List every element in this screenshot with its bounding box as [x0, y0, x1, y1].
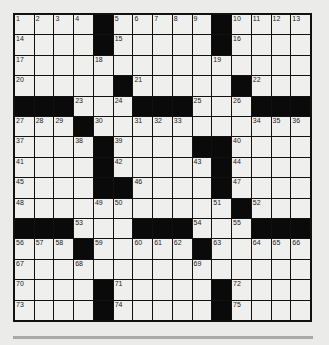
grid-cell[interactable]: 61 [153, 239, 172, 258]
grid-cell[interactable]: 46 [133, 178, 152, 197]
grid-cell[interactable] [232, 117, 251, 136]
grid-cell[interactable] [153, 280, 172, 299]
grid-cell[interactable] [74, 301, 93, 320]
grid-cell[interactable]: 14 [15, 35, 34, 54]
grid-cell[interactable] [173, 158, 192, 177]
grid-cell[interactable] [232, 239, 251, 258]
grid-cell[interactable] [35, 178, 54, 197]
grid-cell[interactable]: 32 [153, 117, 172, 136]
grid-cell[interactable] [133, 137, 152, 156]
grid-cell[interactable] [35, 56, 54, 75]
grid-cell[interactable] [252, 158, 271, 177]
grid-cell[interactable] [272, 301, 291, 320]
grid-cell[interactable] [153, 301, 172, 320]
grid-cell[interactable]: 52 [252, 199, 271, 218]
grid-cell[interactable]: 69 [193, 260, 212, 279]
grid-cell[interactable]: 20 [15, 76, 34, 95]
grid-cell[interactable] [272, 76, 291, 95]
grid-cell[interactable] [94, 76, 113, 95]
grid-cell[interactable] [272, 56, 291, 75]
grid-cell[interactable] [252, 56, 271, 75]
grid-cell[interactable] [74, 199, 93, 218]
grid-cell[interactable]: 8 [173, 15, 192, 34]
grid-cell[interactable]: 65 [272, 239, 291, 258]
grid-cell[interactable]: 67 [15, 260, 34, 279]
grid-cell[interactable]: 75 [232, 301, 251, 320]
grid-cell[interactable] [133, 199, 152, 218]
grid-cell[interactable] [54, 301, 73, 320]
grid-cell[interactable] [193, 56, 212, 75]
grid-cell[interactable] [153, 76, 172, 95]
grid-cell[interactable] [153, 199, 172, 218]
grid-cell[interactable] [133, 35, 152, 54]
grid-cell[interactable] [35, 199, 54, 218]
grid-cell[interactable] [291, 199, 310, 218]
grid-cell[interactable]: 27 [15, 117, 34, 136]
grid-cell[interactable] [35, 158, 54, 177]
grid-cell[interactable]: 66 [291, 239, 310, 258]
grid-cell[interactable] [35, 260, 54, 279]
grid-cell[interactable] [94, 260, 113, 279]
grid-cell[interactable] [173, 56, 192, 75]
grid-cell[interactable]: 49 [94, 199, 113, 218]
grid-cell[interactable] [291, 301, 310, 320]
grid-cell[interactable]: 43 [193, 158, 212, 177]
grid-cell[interactable] [54, 56, 73, 75]
grid-cell[interactable]: 25 [193, 97, 212, 116]
grid-cell[interactable] [74, 178, 93, 197]
grid-cell[interactable] [272, 35, 291, 54]
grid-cell[interactable]: 18 [94, 56, 113, 75]
grid-cell[interactable]: 17 [15, 56, 34, 75]
grid-cell[interactable]: 51 [212, 199, 231, 218]
grid-cell[interactable]: 15 [114, 35, 133, 54]
grid-cell[interactable]: 63 [212, 239, 231, 258]
grid-cell[interactable] [252, 280, 271, 299]
grid-cell[interactable] [173, 35, 192, 54]
grid-cell[interactable]: 9 [193, 15, 212, 34]
grid-cell[interactable] [193, 199, 212, 218]
grid-cell[interactable] [133, 280, 152, 299]
grid-cell[interactable] [35, 137, 54, 156]
grid-cell[interactable] [252, 35, 271, 54]
grid-cell[interactable] [193, 117, 212, 136]
grid-cell[interactable]: 50 [114, 199, 133, 218]
grid-cell[interactable] [153, 260, 172, 279]
grid-cell[interactable]: 70 [15, 280, 34, 299]
grid-cell[interactable]: 53 [74, 219, 93, 238]
grid-cell[interactable]: 23 [74, 97, 93, 116]
grid-cell[interactable] [193, 178, 212, 197]
grid-cell[interactable] [272, 260, 291, 279]
grid-cell[interactable] [94, 97, 113, 116]
grid-cell[interactable]: 10 [232, 15, 251, 34]
grid-cell[interactable]: 68 [74, 260, 93, 279]
grid-cell[interactable]: 5 [114, 15, 133, 34]
grid-cell[interactable]: 59 [94, 239, 113, 258]
grid-cell[interactable]: 73 [15, 301, 34, 320]
grid-cell[interactable]: 2 [35, 15, 54, 34]
grid-cell[interactable]: 28 [35, 117, 54, 136]
grid-cell[interactable]: 38 [74, 137, 93, 156]
grid-cell[interactable] [212, 117, 231, 136]
grid-cell[interactable] [212, 219, 231, 238]
grid-cell[interactable]: 21 [133, 76, 152, 95]
grid-cell[interactable] [252, 301, 271, 320]
grid-cell[interactable] [74, 35, 93, 54]
grid-cell[interactable] [252, 137, 271, 156]
grid-cell[interactable] [193, 301, 212, 320]
grid-cell[interactable]: 54 [193, 219, 212, 238]
grid-cell[interactable] [173, 199, 192, 218]
grid-cell[interactable] [272, 199, 291, 218]
grid-cell[interactable] [212, 97, 231, 116]
grid-cell[interactable]: 7 [153, 15, 172, 34]
grid-cell[interactable] [232, 260, 251, 279]
grid-cell[interactable]: 40 [232, 137, 251, 156]
grid-cell[interactable] [74, 158, 93, 177]
grid-cell[interactable]: 36 [291, 117, 310, 136]
grid-cell[interactable] [291, 178, 310, 197]
grid-cell[interactable] [272, 280, 291, 299]
grid-cell[interactable]: 26 [232, 97, 251, 116]
grid-cell[interactable] [133, 158, 152, 177]
grid-cell[interactable] [54, 199, 73, 218]
grid-cell[interactable]: 13 [291, 15, 310, 34]
grid-cell[interactable] [54, 158, 73, 177]
